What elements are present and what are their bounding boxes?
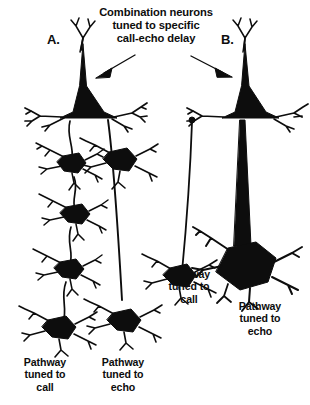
label-pathway-tuned-to-echo-a: Pathway tuned to echo: [86, 356, 160, 393]
relay-neuron-a-echo: [80, 138, 158, 189]
terminal-neuron-a-echo: [84, 299, 162, 350]
label-pathway-tuned-to-call-b: Pathway tuned to call: [152, 268, 226, 305]
label-pathway-tuned-to-echo-b: Pathway tuned to echo: [222, 300, 298, 337]
diagram-title: Combination neurons tuned to specific ca…: [96, 6, 216, 46]
panel-a-call-pathway: [19, 121, 108, 357]
arrow-pointing-to-neuron-b: [191, 56, 232, 77]
panel-b-letter: B.: [221, 33, 234, 47]
figure-canvas: Combination neurons tuned to specific ca…: [0, 0, 310, 405]
arrow-pointing-to-neuron-a: [96, 55, 135, 78]
neuron-diagram-svg: [0, 0, 310, 405]
panel-a-letter: A.: [47, 33, 60, 47]
label-pathway-tuned-to-call-a: Pathway tuned to call: [8, 356, 82, 393]
terminal-neuron-a-call: [19, 306, 97, 357]
relay-neuron-a3: [33, 249, 102, 296]
